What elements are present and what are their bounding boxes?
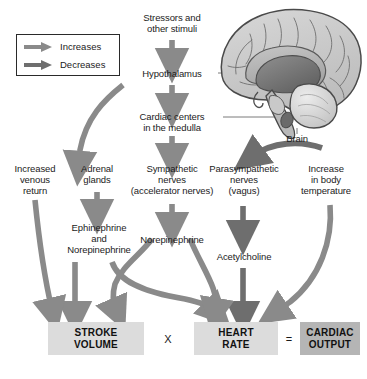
arrow-brain-to-parasympathetic: [253, 143, 322, 156]
stroke-volume-line1: STROKE: [74, 327, 118, 339]
stroke-volume-line2: VOLUME: [74, 339, 118, 351]
node-brain-label: Brain: [272, 133, 322, 144]
adrenal-line1: Adrenal: [68, 163, 126, 174]
brain-illustration: [210, 4, 367, 144]
brain-label-text: Brain: [272, 133, 322, 144]
node-increased-venous-return: Increased venous return: [3, 163, 67, 197]
node-body-temperature: Increase in body temperature: [290, 163, 362, 197]
arrow-body-temperature-to-heart-rate: [277, 205, 330, 311]
body-temp-line1: Increase: [290, 163, 362, 174]
body-temp-line2: in body: [290, 174, 362, 185]
parasympathetic-line2: nerves: [201, 174, 287, 185]
right-arrow-icon: [23, 59, 53, 71]
epinephrine-line1: Ephinephrine: [53, 222, 145, 233]
heart-rate-line1: HEART: [218, 327, 253, 339]
node-norepinephrine: Norepinephrine: [128, 234, 216, 245]
venous-return-line3: return: [3, 185, 67, 196]
adrenal-line2: glands: [68, 174, 126, 185]
cardiac-output-line2: OUTPUT: [306, 339, 354, 351]
equals-symbol: =: [282, 333, 296, 345]
legend-item-increases: Increases: [23, 38, 101, 56]
cardiac-output-box: CARDIAC OUTPUT: [300, 322, 360, 355]
node-stressors-line2: other stimuli: [122, 23, 222, 34]
right-arrow-icon: [23, 41, 53, 53]
node-adrenal-glands: Adrenal glands: [68, 163, 126, 185]
cardiac-output-line1: CARDIAC: [306, 327, 354, 339]
node-stressors: Stressors and other stimuli: [122, 12, 222, 34]
venous-return-line1: Increased: [3, 163, 67, 174]
acetylcholine-label: Acetylcholine: [205, 251, 283, 262]
stroke-volume-box: STROKE VOLUME: [48, 322, 144, 355]
heart-rate-line2: RATE: [218, 339, 253, 351]
node-cardiac-centers-line2: in the medulla: [120, 122, 224, 133]
body-temp-line3: temperature: [290, 185, 362, 196]
epinephrine-line3: Norepinephrine: [53, 244, 145, 255]
arrow-hypothalamus-to-adrenal: [79, 85, 123, 163]
norepinephrine-label: Norepinephrine: [128, 234, 216, 245]
node-hypothalamus: Hypothalamus: [122, 68, 222, 79]
legend-label-increases: Increases: [60, 42, 101, 52]
heart-rate-box: HEART RATE: [194, 322, 278, 355]
node-acetylcholine: Acetylcholine: [205, 251, 283, 262]
legend-label-decreases: Decreases: [60, 60, 105, 70]
node-parasympathetic-nerves: Parasympathetic nerves (vagus): [201, 163, 287, 197]
parasympathetic-line1: Parasympathetic: [201, 163, 287, 174]
node-cardiac-centers: Cardiac centers in the medulla: [120, 111, 224, 133]
arrow-venous-return-to-stroke-volume: [35, 200, 52, 310]
node-cardiac-centers-line1: Cardiac centers: [120, 111, 224, 122]
venous-return-line2: venous: [3, 174, 67, 185]
legend: Increases Decreases: [16, 34, 120, 76]
legend-item-decreases: Decreases: [23, 56, 105, 74]
parasympathetic-line3: (vagus): [201, 185, 287, 196]
cardiac-output-diagram: Increases Decreases Stressors and other …: [0, 0, 367, 379]
multiply-symbol: X: [160, 333, 176, 345]
node-hypothalamus-label: Hypothalamus: [122, 68, 222, 79]
node-stressors-line1: Stressors and: [122, 12, 222, 23]
